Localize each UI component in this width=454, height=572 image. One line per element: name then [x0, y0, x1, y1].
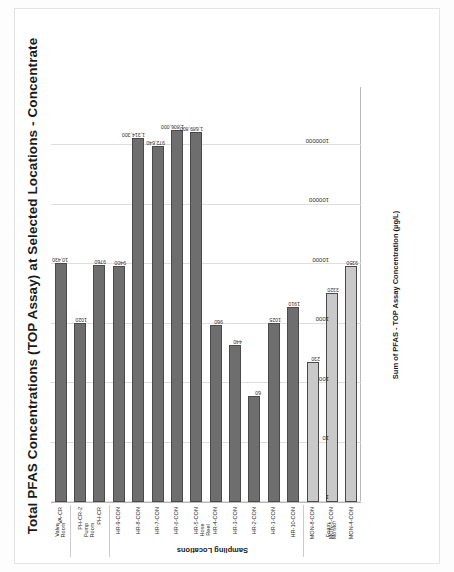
bar-row [190, 86, 202, 502]
bar-value-label: 972,640 [146, 140, 165, 146]
value-axis-tick-label: 100 [319, 376, 329, 382]
category-label-hr-9-con: HR-9-CON [115, 507, 121, 563]
bar-value-label: 9400 [114, 260, 126, 266]
category-label-ph-cr: PH-CR [96, 507, 102, 563]
bar-value-label: 1910 [289, 301, 301, 307]
bar-value-label: 9350 [347, 260, 359, 266]
bar-hr-10-con[interactable] [287, 307, 299, 502]
bar-mon-4-con[interactable] [345, 266, 357, 502]
category-label-hr-2-con: HR-2-CON [251, 507, 257, 563]
bar-hr-1-con[interactable] [268, 323, 280, 502]
bar-row [307, 86, 319, 502]
bar-row [229, 86, 241, 502]
bar-row [93, 86, 105, 502]
value-axis-title: Sum of PFAS - TOP Assay Concentration (µ… [391, 87, 400, 503]
bar-row [171, 86, 183, 502]
bar-hr-9-con[interactable] [113, 266, 125, 502]
category-label-hr-1-con: HR-1-CON [270, 507, 276, 563]
category-label-ph-cr-2: PH-CR-2 [77, 507, 83, 563]
bar-mon-5-con[interactable] [326, 293, 338, 502]
value-axis-tick-label: 10000 [312, 257, 329, 263]
bar-value-label: 440 [233, 339, 242, 345]
bar-hr-8-con[interactable] [132, 138, 144, 502]
bar-value-label: 1,314,300 [122, 132, 145, 138]
chart-title: Total PFAS Concentrations (TOP Assay) at… [25, 9, 40, 563]
bar-value-label: 9760 [95, 259, 107, 265]
category-label-mon-4-con: MON-4-CON [348, 507, 354, 563]
bar-value-label: 3320 [327, 287, 339, 293]
value-axis-tick-label: 1000000 [306, 138, 329, 144]
bar-hr-2-con[interactable] [248, 396, 260, 502]
group-separator [303, 505, 304, 557]
bar-row [55, 86, 67, 502]
value-axis-tick-label: 10 [322, 435, 329, 441]
bar-ph-cr-2[interactable] [74, 323, 86, 502]
group-label-pump-room: PumpRoom [83, 513, 96, 547]
bar-row [74, 86, 86, 502]
bar-hr-6-con[interactable] [171, 130, 183, 502]
value-axis-line [360, 87, 361, 502]
bar-hr-7-con[interactable] [152, 146, 164, 502]
category-label-hr-8-con: HR-8-CON [135, 507, 141, 563]
category-label-mon-8-con: MON-8-CON [309, 507, 315, 563]
bar-row [248, 86, 260, 502]
group-label-hose-reel: HoseReel [199, 513, 212, 547]
group-separator [70, 505, 71, 557]
plot-area [51, 87, 361, 503]
category-label-hr-10-con: HR-10-CON [290, 507, 296, 563]
chart-page: Total PFAS Concentrations (TOP Assay) at… [0, 0, 454, 572]
category-label-hr-7-con: HR-7-CON [154, 507, 160, 563]
bar-row [132, 86, 144, 502]
bar-value-label: 60 [256, 390, 262, 396]
category-label-hr-4-con: HR-4-CON [212, 507, 218, 563]
group-label-foam-monitor: FoamMonitor [325, 513, 338, 547]
bar-hr-3-con[interactable] [229, 345, 241, 502]
bar-value-label: 10,430 [52, 257, 68, 263]
bar-hr-5-con[interactable] [190, 132, 202, 502]
bar-value-label: 960 [214, 319, 223, 325]
bar-va-cr[interactable] [55, 263, 67, 502]
category-label-hr-5-con: HR-5-CON [193, 507, 199, 563]
bar-row [113, 86, 125, 502]
bar-row [287, 86, 299, 502]
rotated-chart-canvas: Total PFAS Concentrations (TOP Assay) at… [14, 8, 440, 564]
bar-mon-8-con[interactable] [307, 362, 319, 502]
bar-value-label: 1020 [76, 317, 88, 323]
category-label-hr-6-con: HR-6-CON [173, 507, 179, 563]
bar-value-label: 1,689,800 [180, 126, 203, 132]
value-axis-tick-label: 100000 [309, 197, 329, 203]
group-label-valve-room: ValveRoom [54, 513, 67, 547]
bar-row [152, 86, 164, 502]
bar-row [268, 86, 280, 502]
group-separator [109, 505, 110, 557]
bar-ph-cr[interactable] [93, 265, 105, 502]
bar-row [345, 86, 357, 502]
category-label-hr-3-con: HR-3-CON [232, 507, 238, 563]
bar-value-label: 230 [311, 356, 320, 362]
value-axis-tick-label: 1 [326, 495, 329, 501]
value-axis-tick-label: 1000 [316, 316, 329, 322]
bar-value-label: 1025 [269, 317, 281, 323]
bar-hr-4-con[interactable] [210, 325, 222, 502]
bar-row [210, 86, 222, 502]
